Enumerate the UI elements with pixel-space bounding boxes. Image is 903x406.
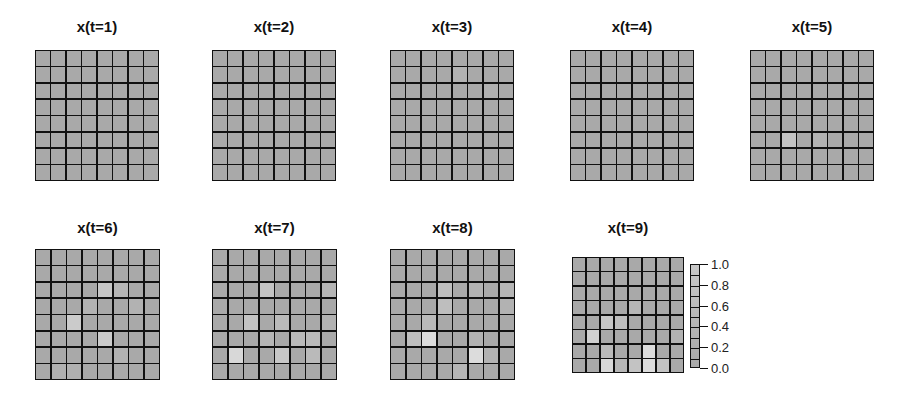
heatmap-cell [259,51,273,66]
heatmap-cell [438,315,452,330]
heatmap-cell [499,100,513,115]
heatmap-cell [648,100,662,115]
heatmap-cell [98,250,112,265]
heatmap-cell [828,149,842,164]
heatmap-cell [453,100,467,115]
heatmap-cell [657,359,669,372]
heatmap-cell [643,301,655,314]
heatmap-cell [260,315,274,330]
heatmap-cell [615,258,627,271]
heatmap-cell [145,332,159,347]
heatmap-cell [602,100,616,115]
heatmap-cell [229,364,243,379]
colorbar-label: 0.6 [711,300,729,313]
heatmap-cell [114,364,128,379]
heatmap-cell [52,332,66,347]
heatmap-cell [679,133,693,148]
heatmap-cell [468,133,482,148]
heatmap-cell [859,84,873,99]
heatmap-cell [259,84,273,99]
heatmap-cell [129,100,143,115]
heatmap-cell [797,51,811,66]
heatmap-cell [602,133,616,148]
heatmap-cell [671,272,683,285]
heatmap-cell [453,283,467,298]
heatmap-cell [406,165,420,180]
heatmap-cell [782,100,796,115]
heatmap-cell [679,100,693,115]
heatmap-cell [259,149,273,164]
heatmap-cell [422,266,436,281]
heatmap-cell [438,348,452,363]
heatmap-cell [129,149,143,164]
heatmap-cell [859,100,873,115]
heatmap-cell [244,100,258,115]
heatmap-cell [228,149,242,164]
heatmap-cell [260,299,274,314]
heatmap-cell [664,133,678,148]
heatmap-cell [601,330,613,343]
heatmap-cell [322,315,336,330]
heatmap-cell [437,116,451,131]
colorbar [690,264,700,368]
heatmap-cell [453,299,467,314]
heatmap-cell [422,283,436,298]
heatmap-cell [213,283,227,298]
heatmap-cell [438,250,452,265]
heatmap-cell [67,116,81,131]
heatmap-cell [67,84,81,99]
heatmap-cell [633,84,647,99]
heatmap-cell [633,100,647,115]
heatmap-cell [406,84,420,99]
heatmap-cell [306,299,320,314]
heatmap-cell [499,116,513,131]
heatmap-cell [229,332,243,347]
heatmap-cell [586,67,600,82]
colorbar-divider [691,327,699,328]
heatmap-cell [322,266,336,281]
heatmap-cell [844,133,858,148]
heatmap-cell [633,165,647,180]
heatmap-cell [571,84,585,99]
heatmap-cell [275,84,289,99]
heatmap-cell [321,133,335,148]
heatmap-cell [259,67,273,82]
heatmap-cell [145,299,159,314]
heatmap-cell [766,116,780,131]
heatmap-cell [648,84,662,99]
heatmap-cell [499,149,513,164]
heatmap-cell [633,149,647,164]
heatmap-cell [587,345,599,358]
heatmap-cell [571,149,585,164]
heatmap-cell [859,116,873,131]
heatmap-cell [601,345,613,358]
heatmap-cell [643,287,655,300]
heatmap-cell [321,67,335,82]
heatmap-cell [145,266,159,281]
heatmap-cell [422,165,436,180]
heatmap-cell [113,116,127,131]
heatmap-cell [145,364,159,379]
heatmap-cell [499,67,513,82]
heatmap-cell [648,51,662,66]
heatmap-cell [587,258,599,271]
heatmap-cell [437,100,451,115]
heatmap-cell [67,332,81,347]
heatmap-cell [229,299,243,314]
heatmap-cell [617,51,631,66]
heatmap-cell [113,165,127,180]
heatmap-cell [844,116,858,131]
heatmap-cell [586,84,600,99]
heatmap-cell [571,116,585,131]
heatmap-cell [98,332,112,347]
heatmap-cell [113,149,127,164]
heatmap-cell [291,283,305,298]
heatmap-cell [844,100,858,115]
heatmap-cell [114,299,128,314]
heatmap-cell [664,149,678,164]
heatmap-cell [586,51,600,66]
heatmap-cell [422,315,436,330]
heatmap-cell [602,51,616,66]
heatmap-cell [275,348,289,363]
heatmap-cell [98,67,112,82]
